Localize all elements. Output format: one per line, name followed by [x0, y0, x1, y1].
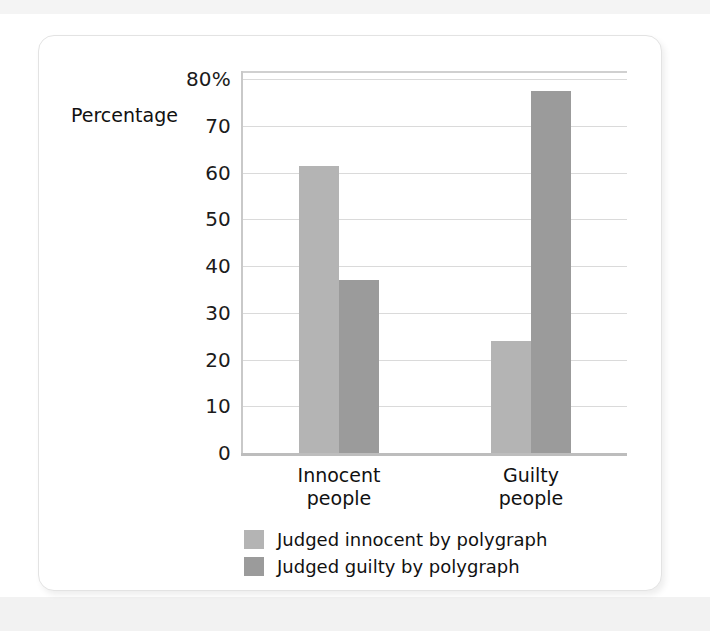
x-axis-category-label-line: Guilty — [499, 464, 563, 487]
x-axis-category-label-line: people — [298, 487, 381, 510]
gridline — [243, 453, 627, 454]
legend-swatch — [244, 557, 264, 576]
legend-item: Judged innocent by polygraph — [244, 529, 547, 550]
y-axis-tick-label: 0 — [218, 441, 231, 465]
bar — [299, 166, 339, 454]
legend-label: Judged guilty by polygraph — [277, 556, 520, 577]
bars-layer — [243, 79, 627, 453]
y-axis-tick-label: 40 — [205, 254, 231, 278]
legend-label: Judged innocent by polygraph — [277, 529, 547, 550]
x-axis-category-labels: InnocentpeopleGuiltypeople — [241, 464, 627, 524]
chart-legend: Judged innocent by polygraphJudged guilt… — [244, 529, 547, 577]
x-axis-category-label: Guiltypeople — [499, 464, 563, 510]
x-axis-category-label-line: Innocent — [298, 464, 381, 487]
x-axis-category-label: Innocentpeople — [298, 464, 381, 510]
y-axis-tick-label: 30 — [205, 301, 231, 325]
plot-top-border — [241, 71, 627, 73]
legend-item: Judged guilty by polygraph — [244, 556, 547, 577]
page-bottom-margin — [0, 597, 710, 631]
x-axis-category-label-line: people — [499, 487, 563, 510]
bar — [491, 341, 531, 453]
y-axis-tick-label: 10 — [205, 394, 231, 418]
y-axis-tick-label: 20 — [205, 348, 231, 372]
y-axis-tick-label: 80% — [186, 67, 231, 91]
y-axis-title: Percentage — [71, 104, 178, 126]
figure-card: Percentage 01020304050607080% Innocentpe… — [38, 35, 662, 591]
bar — [339, 280, 379, 453]
y-axis-tick-label: 70 — [205, 114, 231, 138]
plot-area: 01020304050607080% — [241, 71, 627, 456]
page-top-margin — [0, 0, 710, 14]
bar — [531, 91, 571, 453]
y-axis-tick-label: 60 — [205, 161, 231, 185]
bar-chart: Percentage 01020304050607080% Innocentpe… — [39, 36, 663, 592]
legend-swatch — [244, 530, 264, 549]
y-axis-tick-label: 50 — [205, 207, 231, 231]
